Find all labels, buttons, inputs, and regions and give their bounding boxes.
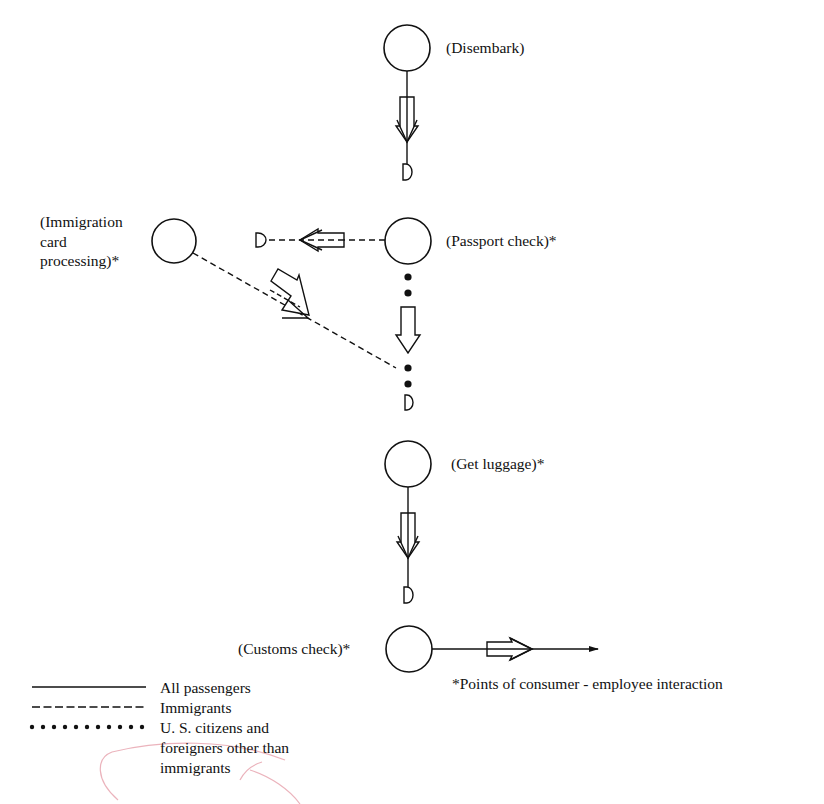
- edge-passport-to-immigration: [262, 229, 385, 251]
- delay-icon: [403, 164, 412, 180]
- node-immigration-circle: [152, 219, 196, 263]
- legend-line-dotted: [30, 725, 144, 729]
- node-label-luggage: (Get luggage)*: [451, 454, 544, 473]
- edge-passport-to-luggage: [396, 273, 420, 387]
- legend-label-dashed: Immigrants: [160, 698, 231, 717]
- delay-icon: [405, 395, 413, 410]
- node-label-immigration: (Immigration card processing)*: [40, 212, 123, 271]
- delay-icon: [404, 587, 413, 603]
- flow-arrow-down-icon: [396, 307, 420, 353]
- node-luggage-circle: [385, 441, 431, 487]
- node-label-disembark: (Disembark): [446, 38, 524, 57]
- legend-label-dotted: U. S. citizens and foreigners other than…: [160, 718, 289, 778]
- delay-icon: [256, 233, 266, 247]
- flow-arrow-diagonal-icon: [271, 269, 309, 315]
- node-customs-circle: [386, 626, 432, 672]
- edge-immigration-to-luggage: [193, 253, 396, 368]
- node-label-passport: (Passport check)*: [446, 231, 557, 250]
- edge-customs-to-exit: [432, 638, 598, 660]
- legend-label-solid: All passengers: [160, 678, 251, 697]
- edge-luggage-to-customs: [397, 487, 419, 587]
- footnote-interaction: *Points of consumer - employee interacti…: [452, 674, 723, 693]
- node-label-customs: (Customs check)*: [238, 639, 350, 658]
- node-passport-circle: [385, 218, 431, 264]
- edge-disembark-to-passport: [396, 71, 418, 164]
- node-disembark-circle: [384, 25, 430, 71]
